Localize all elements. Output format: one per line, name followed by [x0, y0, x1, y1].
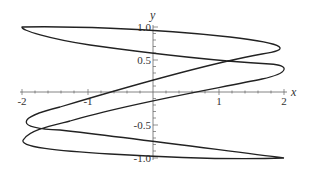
y-tick-label: -1.0: [134, 152, 152, 164]
y-ticks: [153, 27, 158, 158]
y-tick-label: -0.5: [134, 119, 152, 131]
y-axis-title: y: [149, 8, 156, 22]
x-tick-label: -1: [83, 95, 92, 107]
y-tick-label: 0.5: [137, 54, 151, 66]
x-tick-label: 2: [281, 95, 287, 107]
plot: -2 -1 1 2 1.0 0.5 -0.5 -1.0 x y: [0, 0, 311, 174]
x-tick-label: 1: [216, 95, 222, 107]
x-tick-label: -2: [17, 95, 26, 107]
y-tick-label: 1.0: [137, 21, 151, 33]
x-axis-title: x: [290, 85, 297, 99]
